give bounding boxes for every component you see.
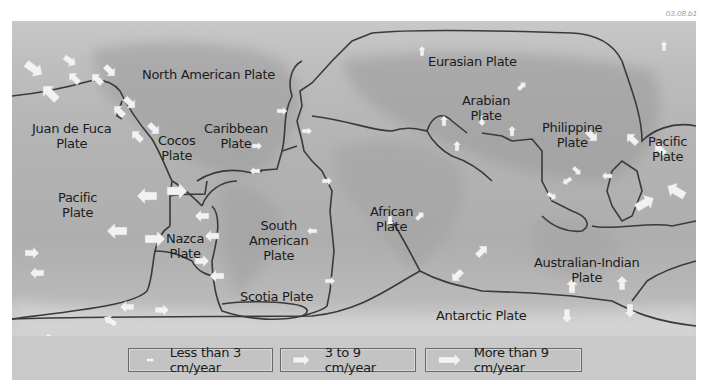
map-graphics	[12, 21, 696, 336]
label-african-plate: AfricanPlate	[370, 204, 413, 234]
legend-label-medium: 3 to 9 cm/year	[325, 345, 415, 375]
label-juan-de-fuca-plate: Juan de FucaPlate	[32, 121, 111, 151]
label-antarctic-plate: Antarctic Plate	[436, 308, 526, 323]
label-cocos-plate: CocosPlate	[158, 133, 195, 163]
label-australian-indian-plate: Australian-IndianPlate	[534, 255, 639, 285]
plate-tectonics-map: North American Plate Eurasian Plate Arab…	[12, 21, 696, 336]
legend-item-slow: Less than 3 cm/year	[128, 348, 273, 372]
label-philippine-plate: PhilippinePlate	[542, 120, 602, 150]
legend-label-slow: Less than 3 cm/year	[170, 345, 272, 375]
small-arrow-icon	[139, 354, 162, 366]
label-nazca-plate: NazcaPlate	[166, 231, 204, 261]
label-caribbean-plate: CaribbeanPlate	[204, 121, 268, 151]
label-pacific-plate-east: PacificPlate	[648, 134, 687, 164]
label-scotia-plate: Scotia Plate	[240, 289, 313, 304]
large-arrow-icon	[436, 351, 466, 369]
label-north-american-plate: North American Plate	[142, 67, 275, 82]
label-south-american-plate: SouthAmericanPlate	[249, 218, 308, 263]
medium-arrow-icon	[287, 353, 317, 367]
label-pacific-plate-west: PacificPlate	[58, 190, 97, 220]
cropped-caption-strip	[0, 0, 703, 8]
legend-item-fast: More than 9 cm/year	[425, 348, 582, 372]
label-arabian-plate: ArabianPlate	[462, 93, 510, 123]
label-eurasian-plate: Eurasian Plate	[428, 54, 517, 69]
legend-item-medium: 3 to 9 cm/year	[280, 348, 416, 372]
legend-label-fast: More than 9 cm/year	[474, 345, 581, 375]
figure-code: 03.08.b1	[666, 9, 697, 18]
